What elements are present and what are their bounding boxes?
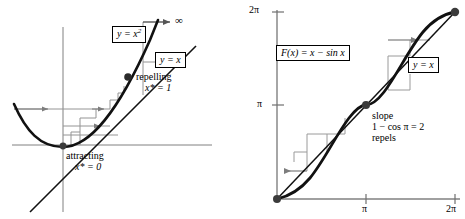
- annotation-repelling: repelling x* = 1: [136, 71, 172, 93]
- right-point-pi: [362, 101, 370, 109]
- slope-line-3: repels: [372, 132, 424, 143]
- repelling-value: x* = 1: [145, 82, 172, 93]
- xtick-label-pi: π: [362, 203, 367, 214]
- label-exponent: 2: [138, 27, 142, 35]
- label-y-equals-x-left: y = x: [155, 52, 186, 68]
- annotation-attracting: attracting x* = 0: [66, 150, 104, 172]
- label-text: y = x: [117, 28, 138, 39]
- left-repelling-point: [124, 73, 132, 81]
- attracting-word: attracting: [66, 150, 104, 161]
- repelling-word: repelling: [136, 71, 172, 82]
- xtick-label-2pi: 2π: [446, 203, 456, 214]
- slope-line-1: slope: [372, 110, 424, 121]
- annotation-slope: slope 1 − cos π = 2 repels: [372, 110, 424, 144]
- ytick-label-pi: π: [257, 98, 262, 109]
- right-panel: 2π π π 2π F(x) = x − sin x y = x slope 1…: [232, 0, 465, 219]
- right-point-origin: [273, 195, 281, 203]
- right-panel-graphics: [232, 0, 465, 219]
- label-infinity: ∞: [175, 14, 183, 26]
- label-y-equals-x-right: y = x: [408, 57, 439, 73]
- figure-root: y = x2 y = x ∞ repelling x* = 1 attracti…: [0, 0, 465, 219]
- left-attracting-point: [60, 143, 67, 150]
- label-y-equals-x-squared: y = x2: [112, 26, 146, 43]
- right-point-2pi: [451, 8, 459, 16]
- attracting-value: x* = 0: [75, 161, 104, 172]
- ytick-label-2pi: 2π: [249, 4, 259, 15]
- slope-line-2: 1 − cos π = 2: [372, 121, 424, 132]
- label-F-of-x: F(x) = x − sin x: [276, 45, 350, 61]
- left-panel: y = x2 y = x ∞ repelling x* = 1 attracti…: [0, 0, 232, 219]
